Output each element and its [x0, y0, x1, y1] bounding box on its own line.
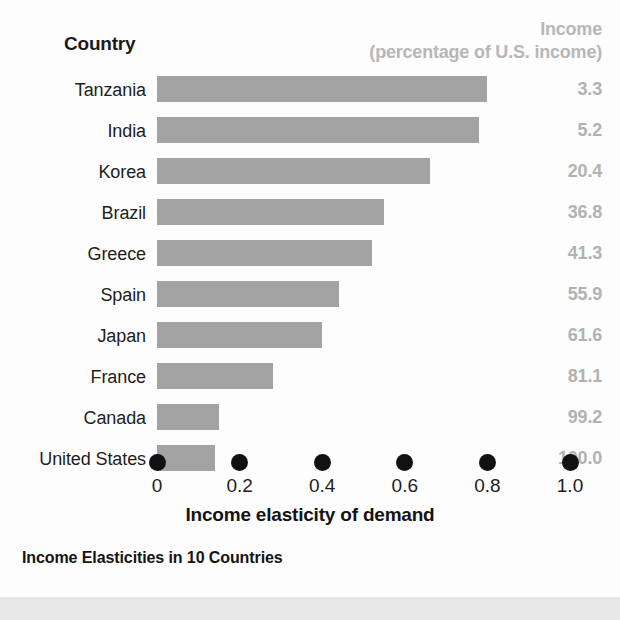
country-label: Korea [0, 162, 146, 183]
chart-row: Tanzania3.3 [0, 76, 620, 117]
elasticity-bar [157, 76, 487, 102]
axis-tick-dot [231, 454, 248, 471]
income-value: 20.4 [512, 161, 602, 182]
x-axis: 00.20.40.60.81.0 [0, 450, 620, 510]
chart-row: India5.2 [0, 117, 620, 158]
chart-rows: Tanzania3.3India5.2Korea20.4Brazil36.8Gr… [0, 0, 620, 450]
axis-tick-label: 0.4 [287, 475, 357, 497]
country-label: Spain [0, 285, 146, 306]
elasticity-bar [157, 199, 384, 225]
chart-row: Spain55.9 [0, 281, 620, 322]
axis-tick-dot [562, 454, 579, 471]
chart-figure: Country Income (percentage of U.S. incom… [0, 0, 620, 597]
elasticity-bar [157, 322, 322, 348]
axis-tick-dot [479, 454, 496, 471]
chart-caption: Income Elasticities in 10 Countries [22, 549, 283, 567]
x-axis-title: Income elasticity of demand [0, 504, 620, 526]
country-label: Greece [0, 244, 146, 265]
income-value: 81.1 [512, 366, 602, 387]
country-label: Japan [0, 326, 146, 347]
axis-tick-label: 0.6 [370, 475, 440, 497]
income-value: 5.2 [512, 120, 602, 141]
axis-tick-dot [314, 454, 331, 471]
chart-row: Brazil36.8 [0, 199, 620, 240]
elasticity-bar [157, 404, 219, 430]
chart-row: Korea20.4 [0, 158, 620, 199]
income-value: 3.3 [512, 79, 602, 100]
country-label: Canada [0, 408, 146, 429]
chart-row: France81.1 [0, 363, 620, 404]
axis-tick-label: 1.0 [535, 475, 605, 497]
elasticity-bar [157, 117, 479, 143]
chart-row: Greece41.3 [0, 240, 620, 281]
axis-tick-label: 0 [122, 475, 192, 497]
income-value: 36.8 [512, 202, 602, 223]
country-label: Tanzania [0, 80, 146, 101]
country-label: France [0, 367, 146, 388]
elasticity-bar [157, 281, 339, 307]
elasticity-bar [157, 240, 372, 266]
axis-tick-label: 0.8 [452, 475, 522, 497]
chart-row: Japan61.6 [0, 322, 620, 363]
axis-tick-dot [396, 454, 413, 471]
income-value: 99.2 [512, 407, 602, 428]
income-value: 55.9 [512, 284, 602, 305]
axis-tick-label: 0.2 [205, 475, 275, 497]
chart-row: Canada99.2 [0, 404, 620, 445]
elasticity-bar [157, 363, 273, 389]
country-label: India [0, 121, 146, 142]
country-label: Brazil [0, 203, 146, 224]
income-value: 41.3 [512, 243, 602, 264]
page-background-strip [0, 597, 620, 620]
axis-tick-dot [149, 454, 166, 471]
elasticity-bar [157, 158, 430, 184]
income-value: 61.6 [512, 325, 602, 346]
